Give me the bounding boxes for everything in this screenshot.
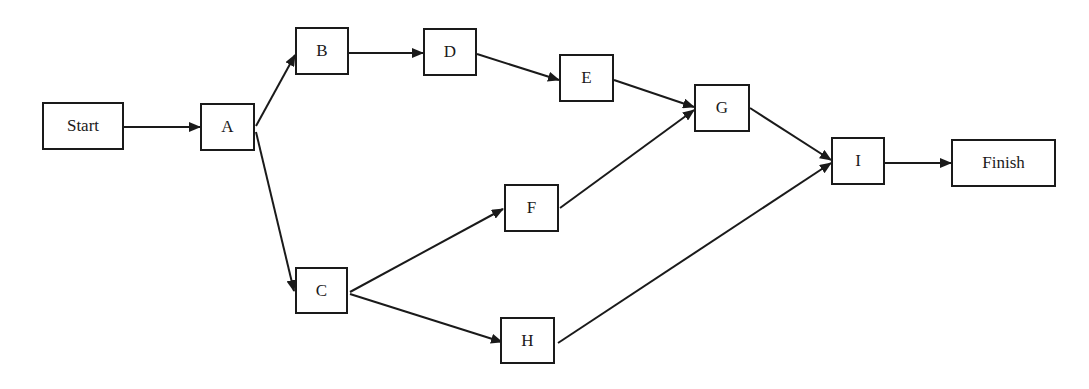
node-h: H xyxy=(500,317,555,364)
edge-a-to-c xyxy=(256,132,294,291)
node-f: F xyxy=(504,184,559,232)
node-a: A xyxy=(200,103,255,151)
edge-a-to-b xyxy=(256,55,295,126)
node-g-label: G xyxy=(716,98,728,118)
node-b-label: B xyxy=(316,41,327,61)
node-i: I xyxy=(831,137,885,185)
edge-d-to-e xyxy=(477,54,559,80)
edge-f-to-g xyxy=(560,110,694,208)
edge-c-to-f xyxy=(350,209,503,292)
node-f-label: F xyxy=(527,198,536,218)
node-finish-label: Finish xyxy=(982,153,1025,173)
node-start-label: Start xyxy=(67,116,99,136)
network-diagram: Start A B C D E F G H I Finish xyxy=(0,0,1089,389)
node-a-label: A xyxy=(221,117,233,137)
edge-e-to-g xyxy=(614,80,694,107)
edge-g-to-i xyxy=(750,108,831,160)
node-e-label: E xyxy=(581,68,591,88)
node-i-label: I xyxy=(855,151,861,171)
node-finish: Finish xyxy=(951,139,1056,187)
node-d-label: D xyxy=(444,42,456,62)
edge-h-to-i xyxy=(558,163,831,343)
node-start: Start xyxy=(42,102,124,150)
node-d: D xyxy=(423,28,477,76)
edge-c-to-h xyxy=(350,294,502,342)
node-g: G xyxy=(694,84,750,132)
node-c-label: C xyxy=(316,281,327,301)
node-e: E xyxy=(559,54,614,102)
node-h-label: H xyxy=(521,331,533,351)
node-c: C xyxy=(295,267,348,314)
node-b: B xyxy=(295,27,349,75)
